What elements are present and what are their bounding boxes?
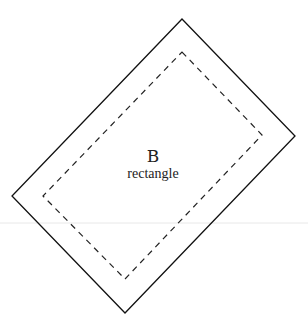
- shape-letter-label: B: [147, 146, 160, 166]
- shape-name-label: rectangle: [127, 166, 178, 181]
- diagram-canvas: B rectangle: [0, 0, 308, 324]
